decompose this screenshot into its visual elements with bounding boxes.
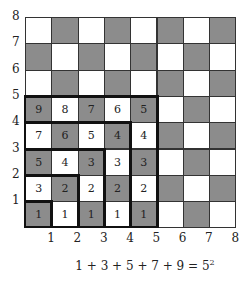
- cell-number: 8: [61, 103, 68, 116]
- x-axis-label: 7: [205, 231, 213, 245]
- gnomon-border: [24, 148, 105, 151]
- board-cell: [209, 201, 236, 228]
- cell-number: 7: [35, 129, 42, 142]
- cell-number: 4: [114, 129, 121, 142]
- cell-number: 3: [114, 156, 121, 169]
- board-cell: [157, 96, 184, 123]
- gnomon-border: [24, 121, 131, 124]
- x-axis-label: 3: [100, 231, 108, 245]
- y-axis-label: 7: [12, 35, 20, 49]
- board-cell: [209, 70, 236, 97]
- board-cell: [130, 43, 157, 70]
- y-axis-label: 1: [12, 193, 20, 207]
- gnomon-border: [24, 226, 158, 228]
- board-cell: [183, 70, 210, 97]
- cell-number: 1: [88, 208, 95, 221]
- board-cell: 1: [51, 201, 78, 228]
- cell-number: 6: [61, 129, 68, 142]
- board-cell: 5: [78, 122, 105, 149]
- board-cell: 6: [51, 122, 78, 149]
- gnomon-border: [77, 174, 80, 229]
- board-cell: [183, 122, 210, 149]
- gnomon-border: [24, 200, 52, 203]
- cell-number: 1: [140, 208, 147, 221]
- board-cell: 7: [25, 122, 52, 149]
- x-axis-label: 2: [74, 231, 82, 245]
- y-axis-label: 5: [12, 88, 20, 102]
- board-cell: 5: [25, 149, 52, 176]
- board-cell: [25, 43, 52, 70]
- board-cell: [209, 43, 236, 70]
- cell-number: 2: [61, 182, 68, 195]
- cell-number: 3: [35, 182, 42, 195]
- board-cell: [51, 17, 78, 44]
- board-cell: 1: [104, 201, 131, 228]
- board-cell: 1: [78, 201, 105, 228]
- board-cell: [209, 17, 236, 44]
- x-axis-label: 4: [126, 231, 134, 245]
- board-cell: 9: [25, 96, 52, 123]
- board-cell: [157, 149, 184, 176]
- gnomon-border: [24, 95, 158, 98]
- y-axis-label: 6: [12, 62, 20, 76]
- board-cell: [51, 43, 78, 70]
- board-cell: 2: [51, 175, 78, 202]
- board-cell: [183, 201, 210, 228]
- board-cell: [183, 149, 210, 176]
- board-cell: [25, 70, 52, 97]
- board-cell: [183, 96, 210, 123]
- cell-number: 2: [140, 182, 147, 195]
- x-axis-label: 5: [153, 231, 161, 245]
- board-cell: 2: [130, 175, 157, 202]
- board-cell: [157, 43, 184, 70]
- board-cell: 5: [130, 96, 157, 123]
- cell-number: 6: [114, 103, 121, 116]
- board-cell: [183, 17, 210, 44]
- board-cell: 2: [78, 175, 105, 202]
- board-cell: [209, 122, 236, 149]
- board-cell: [157, 201, 184, 228]
- gnomon-border: [50, 200, 53, 228]
- x-axis-label: 6: [179, 231, 187, 245]
- board-cell: [104, 43, 131, 70]
- y-axis-label: 2: [12, 167, 20, 181]
- x-axis-label: 1: [47, 231, 55, 245]
- board-cell: [157, 122, 184, 149]
- board-cell: 4: [51, 149, 78, 176]
- board-cell: [209, 149, 236, 176]
- gnomon-border: [24, 174, 79, 177]
- board-cell: 4: [104, 122, 131, 149]
- cell-number: 2: [114, 182, 121, 195]
- gnomon-border: [129, 121, 132, 228]
- board-cell: [78, 70, 105, 97]
- board-cell: [209, 96, 236, 123]
- gnomon-border: [103, 148, 106, 229]
- gnomon-border: [156, 95, 159, 229]
- y-axis-label: 3: [12, 141, 20, 155]
- x-axis-label: 8: [231, 231, 239, 245]
- cell-number: 1: [61, 208, 68, 221]
- board-cell: [51, 70, 78, 97]
- board-cell: [104, 70, 131, 97]
- board-cell: [209, 175, 236, 202]
- board-cell: 8: [51, 96, 78, 123]
- y-axis-label: 4: [12, 114, 20, 128]
- cell-number: 5: [88, 129, 95, 142]
- board-cell: [78, 17, 105, 44]
- cell-number: 3: [88, 156, 95, 169]
- gnomon-border: [24, 95, 26, 229]
- cell-number: 5: [35, 156, 42, 169]
- board-cell: 1: [25, 201, 52, 228]
- board-cell: 1: [130, 201, 157, 228]
- board-cell: 4: [130, 122, 157, 149]
- cell-number: 3: [140, 156, 147, 169]
- board-cell: [78, 43, 105, 70]
- board-cell: 3: [104, 149, 131, 176]
- board-cell: [25, 17, 52, 44]
- board-cell: 3: [25, 175, 52, 202]
- equation: 1 + 3 + 5 + 7 + 9 = 52: [0, 258, 250, 273]
- board-cell: 6: [104, 96, 131, 123]
- board-cell: 7: [78, 96, 105, 123]
- y-axis-label: 8: [12, 9, 20, 23]
- cell-number: 9: [35, 103, 42, 116]
